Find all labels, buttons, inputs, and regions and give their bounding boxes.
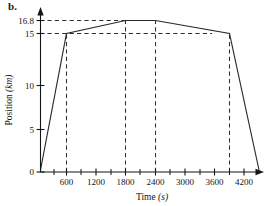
y-axis-title-unit: (km): [4, 75, 15, 92]
series-line-position: [41, 21, 260, 171]
x-tick-label-1200: 1200: [87, 177, 106, 187]
y-tick-label-0: 0: [30, 167, 35, 177]
y-tick-label-16-8: 16.8: [18, 16, 34, 26]
figure-panel: b. 16.8 15 10 5 0: [0, 0, 273, 206]
data-series-position: [41, 21, 260, 171]
x-tick-label-4200: 4200: [235, 177, 254, 187]
x-axis-arrow-icon: [256, 169, 265, 175]
x-tick-label-3000: 3000: [176, 177, 195, 187]
x-tick-label-1800: 1800: [117, 177, 136, 187]
y-axis-title-text: Position: [4, 94, 14, 125]
x-tick-label-2400: 2400: [147, 177, 166, 187]
x-axis-title: Time (s): [136, 192, 168, 203]
x-tick-label-600: 600: [60, 177, 74, 187]
y-axis-title: Position (km): [4, 75, 15, 126]
y-axis: 16.8 15 10 5 0: [18, 7, 44, 177]
y-tick-label-10: 10: [25, 81, 35, 91]
x-axis-title-unit: (s): [158, 192, 168, 203]
x-axis-title-text: Time: [136, 192, 156, 202]
y-tick-label-15: 15: [25, 29, 35, 39]
x-axis: 600 1200 1800 2400 3000 3600 4200: [41, 169, 265, 188]
x-tick-label-3600: 3600: [206, 177, 225, 187]
plot-guide-lines: [40, 21, 230, 173]
y-axis-arrow-icon: [37, 7, 43, 16]
position-vs-time-line-chart: 16.8 15 10 5 0 600 1200 1800: [0, 0, 273, 206]
y-tick-label-5: 5: [30, 125, 35, 135]
